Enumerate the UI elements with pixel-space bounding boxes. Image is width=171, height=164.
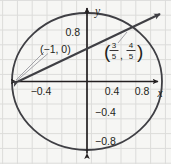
fraction-x-denominator: 5 bbox=[112, 52, 117, 61]
x-tick-label-0-8: 0.8 bbox=[135, 85, 150, 97]
x-tick-label-0-4: 0.4 bbox=[105, 85, 120, 97]
fraction-x-numerator: 3 bbox=[112, 41, 117, 50]
fraction-y-denominator: 5 bbox=[129, 52, 134, 61]
x-tick-label-neg-0-4: −0.4 bbox=[31, 85, 52, 97]
y-axis-label: y bbox=[94, 5, 101, 18]
x-axis-label: x bbox=[156, 87, 163, 99]
y-tick-label-neg-0-4: −0.4 bbox=[95, 106, 116, 118]
fraction-label-close-paren: ) bbox=[137, 41, 143, 62]
y-tick-label-0-8: 0.8 bbox=[65, 26, 80, 38]
diagram-canvas: −0.4 0.4 0.8 0.8 −0.4 −0.8 x y (−1, 0) (… bbox=[0, 0, 171, 164]
y-tick-label-neg-0-8: −0.8 bbox=[95, 135, 116, 147]
fraction-label-separator: , bbox=[120, 49, 123, 61]
unit-circle-diagram: −0.4 0.4 0.8 0.8 −0.4 −0.8 x y (−1, 0) (… bbox=[0, 0, 171, 164]
point-label-minus-one-zero: (−1, 0) bbox=[40, 43, 71, 55]
fraction-y-numerator: 4 bbox=[129, 41, 134, 50]
fraction-label-open-paren: ( bbox=[104, 41, 111, 62]
